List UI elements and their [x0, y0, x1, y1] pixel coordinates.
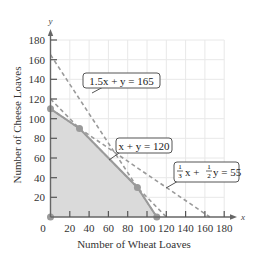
feasible-region-chart: 0 20 40 60 80 100 120 140 160 180 20 40 … — [0, 0, 257, 267]
svg-text:40: 40 — [34, 172, 46, 184]
svg-text:y = 55: y = 55 — [213, 166, 242, 178]
svg-text:60: 60 — [34, 152, 46, 164]
y-axis-arrow-icon — [48, 29, 53, 36]
svg-text:1.5x + y = 165: 1.5x + y = 165 — [89, 75, 154, 87]
x-tick-labels: 0 20 40 60 80 100 120 140 160 180 — [40, 222, 233, 234]
svg-text:80: 80 — [122, 222, 134, 234]
svg-text:1: 1 — [207, 163, 211, 171]
y-axis-label: Number of Cheese Loaves — [11, 67, 23, 184]
svg-text:120: 120 — [29, 93, 46, 105]
svg-text:x +: x + — [185, 166, 199, 178]
svg-text:160: 160 — [29, 54, 46, 66]
callout-1-5x-plus-y-165: 1.5x + y = 165 — [83, 73, 160, 93]
svg-text:100: 100 — [139, 222, 156, 234]
svg-text:3: 3 — [178, 172, 182, 180]
svg-text:1: 1 — [178, 163, 182, 171]
x-axis-arrow-icon — [230, 214, 237, 219]
feasible-region — [51, 109, 157, 217]
svg-text:2: 2 — [207, 172, 211, 180]
svg-text:20: 20 — [34, 191, 46, 203]
svg-text:120: 120 — [158, 222, 175, 234]
y-axis-letter: y — [48, 16, 53, 26]
x-axis-label: Number of Wheat Loaves — [77, 238, 191, 250]
svg-text:80: 80 — [34, 132, 46, 144]
callout-third-x-half-y-55: 1 3 x + 1 2 y = 55 — [166, 162, 242, 188]
svg-text:20: 20 — [64, 222, 76, 234]
svg-text:180: 180 — [216, 222, 233, 234]
svg-text:140: 140 — [177, 222, 194, 234]
svg-text:140: 140 — [29, 73, 46, 85]
x-axis-letter: x — [240, 212, 245, 222]
svg-text:40: 40 — [84, 222, 96, 234]
svg-text:160: 160 — [197, 222, 214, 234]
callout-x-plus-y-120: x + y = 120 — [109, 138, 172, 160]
svg-text:x + y = 120: x + y = 120 — [119, 140, 170, 152]
svg-text:0: 0 — [40, 222, 46, 234]
svg-text:180: 180 — [29, 34, 46, 46]
y-tick-labels: 20 40 60 80 100 120 140 160 180 — [29, 34, 46, 203]
svg-text:60: 60 — [103, 222, 115, 234]
svg-text:100: 100 — [29, 113, 46, 125]
